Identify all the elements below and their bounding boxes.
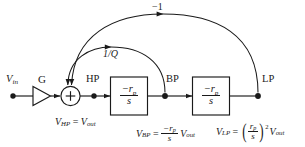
label-feedback-inner: 1/Q [103,49,118,59]
node-lp [255,93,261,99]
block-second-integrator-expression: −rp s [193,85,230,107]
block-diagram: Vin G HP BP LP −1 1/Q −rp s −rp s VHP = … [0,0,305,147]
feedback-arrowhead-outer [157,11,164,16]
equation-lp: VLP = ( rp s ) 2 Vout [216,122,284,141]
equation-bp: VBP = −rp s Vout [136,124,195,143]
node-input [10,93,15,98]
label-node-lp: LP [262,74,274,85]
equation-hp: VHP = Vout [55,117,96,127]
amplifier-g [33,87,51,106]
block-first-integrator-expression: −rp s [111,85,148,107]
label-node-hp: HP [86,74,99,85]
label-input-vin: Vin [6,74,18,85]
label-gain-g: G [38,74,46,85]
label-node-bp: BP [166,74,179,85]
label-feedback-outer: −1 [152,2,163,12]
